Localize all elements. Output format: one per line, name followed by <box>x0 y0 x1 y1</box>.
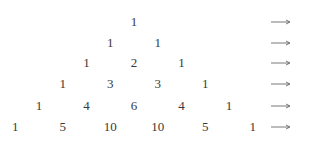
triangle-entry: 1 <box>83 56 90 70</box>
triangle-entry: 1 <box>226 99 233 113</box>
triangle-entry: 3 <box>107 77 114 91</box>
triangle-entry: 6 <box>131 99 138 113</box>
long-right-arrow-icon <box>271 123 291 131</box>
triangle-entry: 1 <box>107 36 114 50</box>
triangle-entry: 1 <box>131 15 138 29</box>
triangle-entry: 10 <box>151 120 164 134</box>
triangle-entry: 1 <box>60 77 67 91</box>
triangle-entry: 5 <box>60 120 67 134</box>
triangle-entry: 1 <box>155 36 162 50</box>
triangle-entry: 4 <box>83 99 90 113</box>
triangle-entry: 1 <box>178 56 185 70</box>
triangle-entry: 5 <box>202 120 209 134</box>
long-right-arrow-icon <box>271 39 291 47</box>
triangle-entry: 1 <box>36 99 43 113</box>
long-right-arrow-icon <box>271 59 291 67</box>
triangle-entry: 1 <box>250 120 257 134</box>
triangle-entry: 1 <box>202 77 209 91</box>
triangle-entry: 4 <box>178 99 185 113</box>
triangle-entry: 3 <box>155 77 162 91</box>
triangle-entry: 1 <box>12 120 19 134</box>
triangle-entry: 2 <box>131 56 138 70</box>
long-right-arrow-icon <box>271 80 291 88</box>
long-right-arrow-icon <box>271 102 291 110</box>
long-right-arrow-icon <box>271 18 291 26</box>
triangle-entry: 10 <box>104 120 117 134</box>
